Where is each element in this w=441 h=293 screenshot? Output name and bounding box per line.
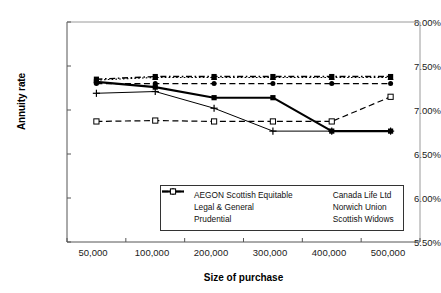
series-layer <box>93 74 394 135</box>
legend-swatch-legal-general <box>165 201 193 213</box>
legend-swatch-prudential <box>165 213 193 225</box>
legend-row: Prudential Scottish Widows <box>165 213 399 225</box>
legend-swatch-norwich-union <box>301 201 332 213</box>
legend-swatch-canada-life <box>301 189 332 201</box>
plot-svg <box>0 0 441 293</box>
legend-label-prudential[interactable]: Prudential <box>193 213 301 225</box>
series-legal-general <box>94 79 393 133</box>
series-canada-life-ltd <box>93 74 393 82</box>
legend-row: Legal & General Norwich Union <box>165 201 399 213</box>
legend-table: AEGON Scottish Equitable Canada Life Ltd… <box>165 189 399 225</box>
chart-legend: AEGON Scottish Equitable Canada Life Ltd… <box>160 185 404 231</box>
legend-row: AEGON Scottish Equitable Canada Life Ltd <box>165 189 399 201</box>
legend-label-norwich-union[interactable]: Norwich Union <box>332 201 399 213</box>
legend-swatch-scottish-widows <box>301 213 332 225</box>
legend-label-canada-life[interactable]: Canada Life Ltd <box>332 189 399 201</box>
legend-label-scottish-widows[interactable]: Scottish Widows <box>332 213 399 225</box>
chart-container: Annuity rate Size of purchase 8.00% 7.50… <box>0 0 441 293</box>
legend-label-legal-general[interactable]: Legal & General <box>193 201 301 213</box>
legend-label-aegon[interactable]: AEGON Scottish Equitable <box>193 189 301 201</box>
series-prudential <box>93 88 394 135</box>
